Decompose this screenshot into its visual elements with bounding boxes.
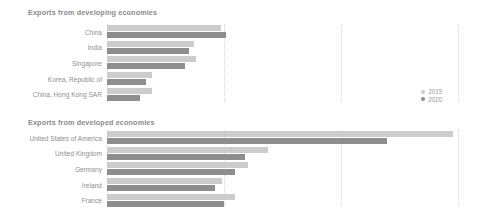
- bar-germany-2020[interactable]: [107, 169, 235, 175]
- category-label-india: India: [88, 44, 102, 51]
- bar-korea-2020[interactable]: [107, 79, 146, 85]
- bar-group-hong-kong: China, Hong Kong SAR: [107, 86, 458, 102]
- bar-hong-kong-2019[interactable]: [107, 88, 152, 94]
- bar-united-states-2019[interactable]: [107, 131, 453, 137]
- bar-group-china: China: [107, 24, 458, 40]
- bar-korea-2019[interactable]: [107, 72, 152, 78]
- gridline-900: [458, 24, 459, 102]
- bar-singapore-2019[interactable]: [107, 56, 196, 62]
- legend-swatch-2019-icon: [421, 90, 425, 94]
- bar-group-germany: Germany: [107, 161, 458, 177]
- bar-group-korea: Korea, Republic of: [107, 71, 458, 87]
- bar-group-united-states: United States of America: [107, 130, 458, 146]
- category-label-singapore: Singapore: [72, 59, 102, 66]
- bar-france-2019[interactable]: [107, 194, 235, 200]
- category-label-ireland: Ireland: [82, 181, 102, 188]
- gridline-900: [458, 130, 459, 206]
- category-label-korea: Korea, Republic of: [48, 75, 102, 82]
- bar-united-states-2020[interactable]: [107, 138, 387, 144]
- bar-china-2019[interactable]: [107, 25, 221, 31]
- bar-singapore-2020[interactable]: [107, 63, 185, 69]
- bar-china-2020[interactable]: [107, 32, 226, 38]
- bar-group-ireland: Ireland: [107, 177, 458, 193]
- bar-ireland-2019[interactable]: [107, 178, 222, 184]
- category-label-hong-kong: China, Hong Kong SAR: [33, 91, 102, 98]
- bar-group-united-kingdom: United Kingdom: [107, 146, 458, 162]
- category-label-china: China: [85, 28, 102, 35]
- bar-germany-2019[interactable]: [107, 162, 248, 168]
- legend-label-2019: 2019: [428, 88, 442, 96]
- plot-area-developing: China India Singapore Korea, Republic of…: [107, 24, 458, 102]
- bar-group-france: France: [107, 192, 458, 208]
- legend-swatch-2020-icon: [421, 97, 425, 101]
- legend-item-2020[interactable]: 2020: [421, 96, 442, 104]
- category-label-france: France: [81, 197, 102, 204]
- bar-france-2020[interactable]: [107, 201, 224, 207]
- bar-group-singapore: Singapore: [107, 55, 458, 71]
- bar-hong-kong-2020[interactable]: [107, 95, 140, 101]
- bar-india-2020[interactable]: [107, 48, 189, 54]
- chart-panel-developed: Exports from developed economies United …: [0, 110, 486, 222]
- bar-ireland-2020[interactable]: [107, 185, 215, 191]
- category-label-germany: Germany: [75, 165, 102, 172]
- bar-united-kingdom-2019[interactable]: [107, 147, 268, 153]
- category-label-united-states: United States of America: [29, 134, 102, 141]
- category-label-united-kingdom: United Kingdom: [55, 150, 102, 157]
- chart-panel-developing: Exports from developing economies China …: [0, 0, 486, 110]
- plot-area-developed: United States of America United Kingdom …: [107, 130, 458, 206]
- panel-title-developed: Exports from developed economies: [28, 118, 155, 127]
- panel-title-developing: Exports from developing economies: [28, 8, 157, 17]
- legend-label-2020: 2020: [428, 96, 442, 104]
- bar-india-2019[interactable]: [107, 41, 194, 47]
- legend-developing: 2019 2020: [421, 88, 442, 103]
- bar-united-kingdom-2020[interactable]: [107, 154, 245, 160]
- legend-item-2019[interactable]: 2019: [421, 88, 442, 96]
- bar-group-india: India: [107, 40, 458, 56]
